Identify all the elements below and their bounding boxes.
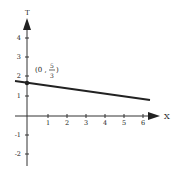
data-line [15,81,150,100]
svg-text:-1: -1 [15,131,21,139]
svg-text:-2: -2 [15,150,21,158]
svg-text:4: 4 [17,34,21,42]
svg-text:3: 3 [50,72,54,79]
svg-text:(0 ,: (0 , [35,66,47,74]
y-axis-label: T [25,9,30,17]
svg-text:6: 6 [141,119,145,127]
svg-text:3: 3 [17,53,21,61]
x-axis-label: X [164,112,170,121]
svg-text:5: 5 [122,119,126,127]
svg-text:4: 4 [103,119,107,127]
svg-text:2: 2 [65,119,69,127]
point-annotation: (0 , 5 3 ) [35,62,59,79]
graph: X T 1 2 3 4 5 6 4 3 2 1 -1 -2 [0,0,179,174]
svg-text:3: 3 [84,119,88,127]
x-axis-arrow-icon [148,112,160,120]
point-marker [25,81,29,85]
svg-text:1: 1 [17,92,21,100]
x-tick-labels: 1 2 3 4 5 6 [46,119,145,127]
svg-text:1: 1 [46,119,50,127]
svg-text:5: 5 [50,62,54,69]
y-tick-labels: 4 3 2 1 -1 -2 [15,34,21,158]
svg-text:2: 2 [17,72,21,80]
y-axis-arrow-icon [23,18,31,30]
svg-text:): ) [56,66,59,74]
